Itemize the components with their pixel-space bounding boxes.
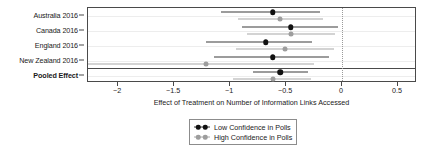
legend-item[interactable]: Low Confidence in Polls	[193, 122, 292, 132]
legend-marker	[193, 123, 211, 132]
x-axis-tick-label: 0.5	[392, 86, 402, 95]
legend-marker	[193, 133, 211, 142]
data-point	[278, 70, 284, 76]
data-point	[288, 31, 293, 36]
confidence-interval-line	[88, 63, 314, 64]
row-gridline	[88, 61, 415, 62]
pooled-separator	[88, 68, 415, 69]
legend-label: High Confidence in Polls	[214, 133, 292, 142]
y-axis-tick	[79, 59, 84, 60]
x-axis-tick-label: −1.5	[166, 86, 180, 95]
zero-reference-line	[342, 8, 344, 81]
y-axis-tick	[79, 74, 84, 75]
y-axis-label: Pooled Effect	[33, 70, 78, 79]
y-axis-tick	[79, 44, 84, 45]
plot-area	[87, 7, 416, 82]
confidence-interval-line	[206, 42, 312, 43]
plot-inner	[88, 8, 415, 81]
legend-dot-icon	[196, 125, 201, 130]
legend-label: Low Confidence in Polls	[214, 123, 291, 132]
legend-dot-icon	[203, 135, 208, 140]
y-axis-label: New Zealand 2016	[19, 55, 78, 64]
legend-item[interactable]: High Confidence in Polls	[193, 132, 292, 142]
legend-dot-icon	[203, 125, 208, 130]
forest-plot-figure: Australia 2016Canada 2016England 2016New…	[0, 0, 426, 149]
data-point	[270, 55, 276, 61]
row-gridline	[88, 16, 415, 17]
row-gridline	[88, 31, 415, 32]
data-point	[203, 61, 208, 66]
x-axis-title: Effect of Treatment on Number of Informa…	[87, 98, 416, 107]
y-axis-label: England 2016	[35, 40, 78, 49]
data-point	[278, 16, 283, 21]
x-axis-tick-label: 0	[339, 86, 343, 95]
data-point	[282, 46, 287, 51]
row-gridline	[88, 46, 415, 47]
data-point	[288, 25, 294, 31]
row-gridline	[88, 76, 415, 77]
y-axis-label: Australia 2016	[33, 10, 78, 19]
x-axis: Effect of Treatment on Number of Informa…	[87, 82, 416, 108]
data-point	[270, 76, 275, 81]
x-axis-tick-label: −0.5	[278, 86, 292, 95]
x-axis-tick-label: −1	[225, 86, 233, 95]
legend-dot-icon	[196, 135, 201, 140]
y-axis-label: Canada 2016	[36, 25, 78, 34]
x-axis-tick-label: −2	[113, 86, 121, 95]
data-point	[263, 40, 269, 46]
y-axis: Australia 2016Canada 2016England 2016New…	[0, 7, 84, 82]
data-point	[270, 10, 276, 16]
y-axis-tick	[79, 29, 84, 30]
y-axis-tick	[79, 14, 84, 15]
chart-legend: Low Confidence in PollsHigh Confidence i…	[189, 119, 297, 145]
